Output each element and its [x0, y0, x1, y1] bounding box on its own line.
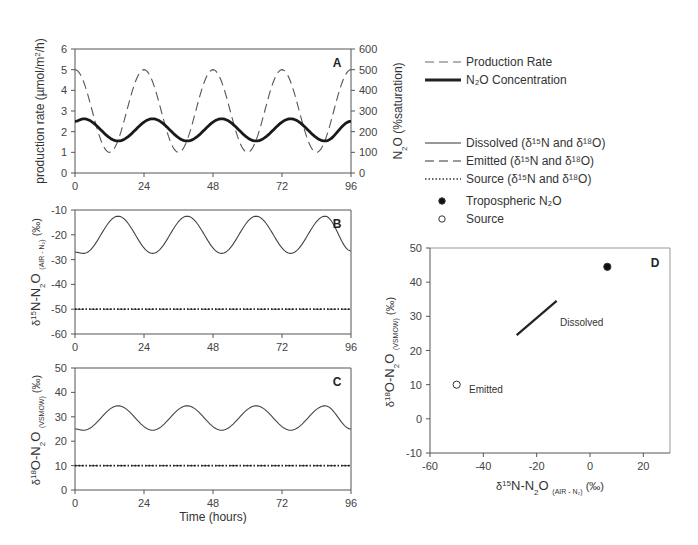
- y-tick-label: 0: [61, 167, 67, 179]
- x-tick-label: 24: [138, 497, 150, 509]
- y-tick-label: -20: [51, 229, 67, 241]
- y-right-tick-label: 600: [359, 43, 377, 55]
- emitted-point: [453, 381, 460, 388]
- y-right-tick-label: 200: [359, 126, 377, 138]
- x-tick-label: 0: [72, 497, 78, 509]
- panel-label: A: [333, 56, 342, 70]
- legend-label: Dissolved (δ¹⁵N and δ¹⁸O): [466, 136, 605, 150]
- panel-c: 02448729601020304050C: [55, 362, 357, 509]
- dissolved-line: [517, 301, 557, 335]
- x-tick-label: 24: [138, 341, 150, 353]
- y-tick-label: 50: [55, 362, 67, 374]
- y-right-tick-label: 500: [359, 64, 377, 76]
- annotation-dissolved: Dissolved: [560, 317, 603, 328]
- y-tick-label: 5: [61, 64, 67, 76]
- x-tick-label: 0: [587, 460, 593, 472]
- y-axis-label-d15n: δ15N-N2O (AIR - N₂) (‰): [28, 218, 47, 326]
- legend: Production RateN₂O ConcentrationDissolve…: [425, 55, 605, 226]
- annotation-emitted: Emitted: [469, 384, 503, 395]
- y-tick-label: 20: [55, 435, 67, 447]
- y-axis-label-production-rate: production rate (µmol/m2/h): [33, 38, 48, 183]
- y-tick-label: 40: [410, 276, 422, 288]
- y-tick-label: 3: [61, 105, 67, 117]
- tropospheric-point: [604, 263, 611, 270]
- panel-a: 0244872960123456A0100200300400500600: [61, 43, 377, 192]
- series-dissolved: [75, 406, 351, 430]
- x-tick-label: 48: [207, 497, 219, 509]
- y-tick-label: -40: [51, 278, 67, 290]
- series-dissolved: [75, 216, 351, 253]
- x-axis-label-time: Time (hours): [179, 510, 247, 524]
- y-tick-label: -50: [51, 303, 67, 315]
- y-right-tick-label: 300: [359, 105, 377, 117]
- x-axis-label-d15n: δ15N-N2O (AIR - N₂) (‰): [496, 478, 604, 497]
- series-n2o-concentration: [75, 119, 351, 141]
- panel-label: D: [651, 256, 660, 270]
- y-axis-label-n2o-saturation: N2O (%saturation): [391, 62, 409, 159]
- y-tick-label: 40: [55, 386, 67, 398]
- legend-label: Source: [466, 212, 504, 226]
- x-tick-label: 72: [276, 341, 288, 353]
- x-tick-label: -20: [529, 460, 545, 472]
- legend-label: Source (δ¹⁵N and δ¹⁸O): [466, 172, 591, 186]
- x-tick-label: 48: [207, 180, 219, 192]
- y-tick-label: 2: [61, 126, 67, 138]
- legend-label: Production Rate: [466, 55, 552, 69]
- y-tick-label: 20: [410, 345, 422, 357]
- panel-label: C: [333, 375, 342, 389]
- legend-label: N₂O Concentration: [466, 73, 567, 87]
- y-tick-label: 10: [55, 460, 67, 472]
- x-tick-label: 72: [276, 497, 288, 509]
- x-tick-label: 48: [207, 341, 219, 353]
- panel-d: -60-40-20020-1001020304050DissolvedEmitt…: [406, 242, 670, 472]
- x-tick-label: -60: [422, 460, 438, 472]
- x-tick-label: 72: [276, 180, 288, 192]
- x-tick-label: 24: [138, 180, 150, 192]
- x-tick-label: 96: [345, 180, 357, 192]
- y-tick-label: 1: [61, 146, 67, 158]
- x-tick-label: 0: [72, 341, 78, 353]
- x-tick-label: 20: [637, 460, 649, 472]
- y-axis-label-d18o-d: δ18O-N2O (VSMOW) (‰): [382, 297, 401, 407]
- y-tick-label: 30: [55, 411, 67, 423]
- y-right-tick-label: 100: [359, 146, 377, 158]
- axis-labels: production rate (µmol/m2/h)N2O (%saturat…: [28, 38, 604, 524]
- y-right-tick-label: 400: [359, 84, 377, 96]
- y-tick-label: 10: [410, 379, 422, 391]
- figure: 0244872960123456A0100200300400500600 024…: [0, 0, 698, 545]
- y-tick-label: 0: [416, 413, 422, 425]
- x-tick-label: 96: [345, 341, 357, 353]
- panel-b: 024487296-60-50-40-30-20-10B: [51, 204, 357, 353]
- x-tick-label: -40: [475, 460, 491, 472]
- panel-label: B: [333, 217, 342, 231]
- y-tick-label: -10: [406, 447, 422, 459]
- y-tick-label: 50: [410, 242, 422, 254]
- legend-label: Tropospheric N₂O: [466, 194, 562, 208]
- x-tick-label: 96: [345, 497, 357, 509]
- y-axis-label-d18o: δ18O-N2O (VSMOW) (‰): [28, 375, 47, 485]
- legend-label: Emitted (δ¹⁵N and δ¹⁸O): [466, 154, 594, 168]
- legend-marker: [439, 198, 445, 204]
- y-tick-label: 0: [61, 484, 67, 496]
- y-tick-label: 6: [61, 43, 67, 55]
- y-right-tick-label: 0: [359, 167, 365, 179]
- legend-marker: [439, 216, 445, 222]
- y-tick-label: 4: [61, 84, 67, 96]
- y-tick-label: -30: [51, 254, 67, 266]
- y-tick-label: -60: [51, 328, 67, 340]
- y-tick-label: -10: [51, 204, 67, 216]
- x-tick-label: 0: [72, 180, 78, 192]
- y-tick-label: 30: [410, 310, 422, 322]
